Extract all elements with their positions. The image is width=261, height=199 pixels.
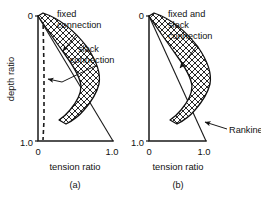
- panel-a: 0 1.0 0 1.0 depth ratio tension ratio fi…: [5, 8, 125, 190]
- panel-b-annot-rankine: Rankine: [229, 125, 261, 135]
- panel-a-y-axis-title: depth ratio: [5, 57, 16, 101]
- panel-b-caption: (b): [172, 180, 183, 190]
- panel-a-caption: (a): [69, 180, 80, 190]
- panel-b-annot-line1: fixed and: [168, 9, 205, 19]
- panel-a-annot-slack-line1: slack: [78, 44, 99, 54]
- panel-a-x-axis-title: tension ratio: [49, 161, 100, 172]
- panel-b-xtick-label-0: 0: [146, 146, 151, 157]
- figure-svg: 0 1.0 0 1.0 depth ratio tension ratio fi…: [0, 0, 261, 199]
- panel-a-xtick-label-0: 0: [35, 146, 40, 157]
- figure-container: 0 1.0 0 1.0 depth ratio tension ratio fi…: [0, 0, 261, 199]
- panel-b-x-axis-title: tension ratio: [152, 161, 203, 172]
- panel-b-ytick-label-1: 1.0: [131, 137, 144, 148]
- panel-a-annot-slack-line2: connection: [70, 55, 114, 65]
- panel-a-annot-fixed-line1: fixed: [57, 9, 76, 19]
- panel-a-dashed-line: [43, 18, 44, 140]
- panel-b: 0 1.0 0 1.0 tension ratio fixed and slac…: [131, 8, 261, 190]
- panel-b-annot-line2: slack: [168, 20, 189, 30]
- panel-b-xtick-label-1: 1.0: [197, 146, 210, 157]
- panel-b-ytick-label-0: 0: [139, 10, 144, 21]
- panel-a-ytick-label-0: 0: [28, 10, 33, 21]
- panel-b-annot-line3: connection: [168, 31, 212, 41]
- panel-b-rankine-leader: [205, 122, 227, 129]
- panel-a-ytick-label-1: 1.0: [20, 137, 33, 148]
- panel-a-annot-fixed-line2: connection: [57, 20, 101, 30]
- panel-a-slack-leader-2: [48, 79, 62, 82]
- panel-a-xtick-label-1: 1.0: [105, 146, 118, 157]
